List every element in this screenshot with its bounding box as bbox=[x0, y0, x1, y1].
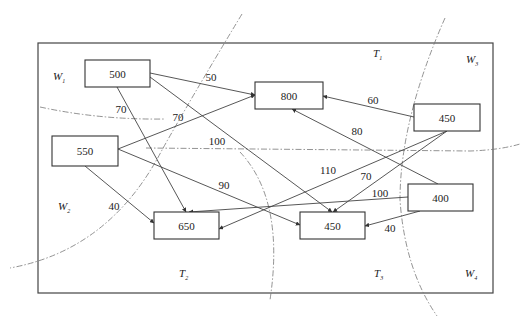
region-label-W3: W3 bbox=[466, 53, 478, 67]
edge-n550-n650: 40 bbox=[85, 166, 154, 223]
edge-arrow bbox=[189, 197, 408, 212]
edge-cost-label: 90 bbox=[219, 179, 231, 191]
node-n400: 400 bbox=[408, 184, 473, 211]
edge-arrow bbox=[150, 73, 255, 95]
region-label-T2: T2 bbox=[179, 267, 188, 281]
edge-n400-n450b: 40 bbox=[365, 211, 420, 234]
region-label-W1: W1 bbox=[53, 70, 65, 84]
node-n650: 650 bbox=[154, 212, 219, 239]
boundary-middle-vertical bbox=[240, 152, 274, 300]
node-n450b: 450 bbox=[300, 212, 365, 239]
node-n500: 500 bbox=[85, 60, 150, 87]
edge-cost-label: 40 bbox=[109, 200, 121, 212]
edge-cost-label: 100 bbox=[209, 135, 226, 147]
edge-n450a-n800: 60 bbox=[323, 94, 414, 117]
edge-cost-label: 70 bbox=[116, 103, 128, 115]
edge-cost-label: 70 bbox=[361, 170, 373, 182]
edge-arrow bbox=[85, 166, 154, 223]
edge-n550-n800: 70 bbox=[118, 95, 255, 149]
edge-cost-label: 80 bbox=[352, 125, 364, 137]
node-n800: 800 bbox=[255, 82, 323, 109]
boundary-upper-horizontal bbox=[40, 107, 165, 119]
edge-arrow bbox=[117, 87, 186, 212]
edge-n500-n650: 70 bbox=[116, 87, 187, 212]
node-value: 800 bbox=[281, 90, 298, 102]
edge-cost-label: 40 bbox=[385, 222, 397, 234]
edge-cost-label: 50 bbox=[206, 71, 218, 83]
node-n450a: 450 bbox=[414, 104, 480, 131]
region-label-W4: W4 bbox=[465, 267, 477, 281]
node-value: 450 bbox=[324, 220, 341, 232]
region-label-T3: T3 bbox=[374, 267, 383, 281]
edge-cost-label: 110 bbox=[320, 164, 337, 176]
region-label-T1: T1 bbox=[373, 47, 382, 61]
edge-cost-label: 100 bbox=[372, 187, 389, 199]
edge-cost-label: 70 bbox=[173, 111, 185, 123]
boundary-right-curve bbox=[400, 18, 445, 316]
node-value: 550 bbox=[77, 145, 94, 157]
boundary-middle-horizontal bbox=[146, 144, 520, 151]
node-n550: 550 bbox=[52, 136, 118, 166]
region-label-W2: W2 bbox=[58, 200, 70, 214]
edge-n500-n800: 50 bbox=[150, 71, 255, 95]
transport-network-diagram: 507010070409060110708010040 500550800450… bbox=[0, 0, 521, 327]
edge-cost-label: 60 bbox=[368, 94, 380, 106]
edge-arrow bbox=[118, 95, 255, 149]
node-value: 400 bbox=[432, 192, 449, 204]
node-value: 500 bbox=[109, 68, 126, 80]
node-value: 650 bbox=[178, 220, 195, 232]
node-value: 450 bbox=[439, 112, 456, 124]
